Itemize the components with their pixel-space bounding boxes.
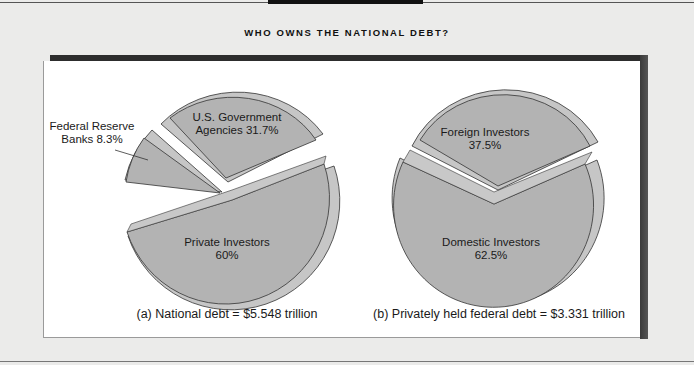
label-fed-line2: Banks 8.3% <box>61 133 122 145</box>
pie-chart-privately-held-debt: Foreign Investors 37.5% Domestic Investo… <box>373 90 625 321</box>
label-private-line1: Private Investors <box>184 236 270 248</box>
label-foreign-line1: Foreign Investors <box>441 126 530 138</box>
bottom-rule <box>0 361 694 362</box>
caption-b: (b) Privately held federal debt = $3.331… <box>373 307 625 321</box>
label-domestic-line1: Domestic Investors <box>442 236 540 248</box>
label-foreign-line2: 37.5% <box>469 139 502 151</box>
label-private-line2: 60% <box>215 249 238 261</box>
label-fed-line1: Federal Reserve <box>49 120 134 132</box>
label-gov-line2: Agencies 31.7% <box>195 124 278 136</box>
caption-a: (a) National debt = $5.548 trillion <box>136 307 317 321</box>
label-domestic-line2: 62.5% <box>475 249 508 261</box>
charts-canvas: Federal Reserve Banks 8.3% U.S. Governme… <box>0 0 694 365</box>
pie-chart-national-debt: Federal Reserve Banks 8.3% U.S. Governme… <box>49 92 339 321</box>
label-gov-line1: U.S. Government <box>193 111 283 123</box>
